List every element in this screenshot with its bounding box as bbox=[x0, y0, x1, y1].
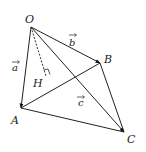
vector-label-b: b bbox=[69, 34, 77, 49]
tetrahedron-diagram: O A B C H a b c bbox=[0, 0, 146, 152]
edge-BC bbox=[100, 63, 124, 132]
vector-label-a: a bbox=[12, 61, 20, 74]
vector-c bbox=[31, 27, 124, 132]
label-B: B bbox=[103, 53, 112, 66]
label-H: H bbox=[32, 77, 43, 90]
edge-AC bbox=[21, 108, 124, 132]
vector-b bbox=[31, 27, 100, 63]
label-C: C bbox=[127, 133, 136, 146]
svg-text:b: b bbox=[69, 37, 75, 48]
perpendicular-OH bbox=[31, 27, 46, 76]
vector-a bbox=[21, 27, 31, 108]
label-O: O bbox=[25, 13, 34, 26]
label-A: A bbox=[10, 114, 19, 127]
svg-text:c: c bbox=[78, 97, 84, 108]
svg-text:a: a bbox=[12, 62, 18, 73]
vector-label-c: c bbox=[77, 96, 85, 109]
